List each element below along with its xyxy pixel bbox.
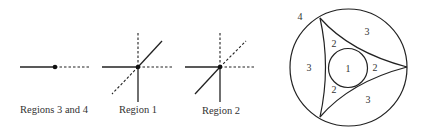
caption-region-1: Region 1 bbox=[119, 104, 157, 115]
label-region-2-right: 2 bbox=[373, 62, 378, 73]
figure-region-2: Region 2 bbox=[185, 32, 256, 116]
label-region-4: 4 bbox=[298, 11, 303, 22]
dashed-ray-diagonal-up-right bbox=[220, 41, 246, 67]
region-diagram: 4 3 3 3 2 2 2 1 bbox=[290, 9, 407, 126]
label-region-3-top: 3 bbox=[365, 26, 370, 37]
label-region-3-bottom: 3 bbox=[366, 94, 371, 105]
solid-ray-diagonal-up-right bbox=[138, 41, 162, 67]
solid-ray-diagonal-down-left bbox=[195, 67, 220, 94]
diagram-canvas: Regions 3 and 4 Region 1 Region 2 4 3 3 … bbox=[0, 0, 426, 131]
vertex-dot bbox=[218, 65, 223, 70]
caption-regions-3-and-4: Regions 3 and 4 bbox=[20, 104, 89, 115]
label-region-3-left: 3 bbox=[307, 62, 312, 73]
caption-region-2: Region 2 bbox=[202, 105, 240, 116]
label-region-1: 1 bbox=[346, 63, 351, 74]
vertex-dot bbox=[53, 65, 58, 70]
label-region-2-top: 2 bbox=[332, 38, 337, 49]
figure-region-1: Region 1 bbox=[102, 32, 174, 115]
figure-regions-3-and-4: Regions 3 and 4 bbox=[20, 65, 91, 115]
curved-triangle-left-side bbox=[320, 18, 326, 117]
label-region-2-bottom: 2 bbox=[332, 84, 337, 95]
vertex-dot bbox=[136, 65, 141, 70]
dashed-ray-diagonal-down-left bbox=[112, 67, 138, 94]
